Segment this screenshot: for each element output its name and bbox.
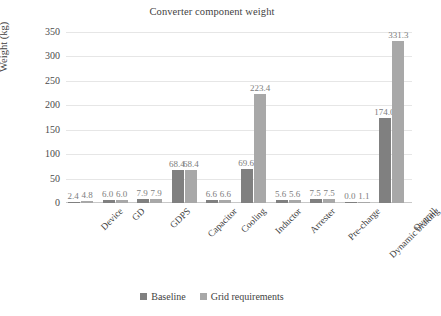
bar[interactable] <box>323 199 335 203</box>
bar[interactable] <box>68 202 80 204</box>
y-axis-tick-label: 200 <box>34 99 60 110</box>
y-axis-tick-label: 250 <box>34 75 60 86</box>
bar-group: 174.0331.3 <box>377 32 412 203</box>
bar[interactable] <box>289 200 301 203</box>
bar[interactable] <box>358 202 370 204</box>
bar-group: 69.6223.4 <box>239 32 274 203</box>
bar-value-label: 331.3 <box>383 30 413 40</box>
y-axis-tick-label: 300 <box>34 50 60 61</box>
chart-title: Converter component weight <box>0 6 424 17</box>
x-axis-tick-label: Device <box>99 206 125 232</box>
x-axis-tick-label: GD <box>130 206 147 223</box>
legend-item[interactable]: Grid requirements <box>200 291 284 302</box>
bar[interactable] <box>116 200 128 203</box>
x-axis-tick-label: Cooling <box>239 206 268 235</box>
bar-value-label: 7.9 <box>141 188 171 198</box>
bar-group: 5.65.6 <box>274 32 309 203</box>
y-axis-tick-label: 0 <box>34 197 60 208</box>
bar[interactable] <box>345 202 357 203</box>
bar-group: 6.66.6 <box>204 32 239 203</box>
bar-value-label: 6.6 <box>210 189 240 199</box>
bar[interactable] <box>219 200 231 203</box>
bar-group: 7.97.9 <box>135 32 170 203</box>
x-axis-tick-label: Pre-charge <box>345 206 381 242</box>
bar[interactable] <box>150 199 162 203</box>
bar[interactable] <box>81 201 93 203</box>
x-axis-tick-label: GDPS <box>168 206 192 230</box>
bar[interactable] <box>254 94 266 203</box>
bar[interactable] <box>137 199 149 203</box>
bar[interactable] <box>241 169 253 203</box>
bar[interactable] <box>276 200 288 203</box>
bar[interactable] <box>392 41 404 203</box>
legend-swatch-icon <box>200 293 207 300</box>
x-axis-tick-label: Arrester <box>308 206 337 235</box>
legend-label: Grid requirements <box>211 291 284 302</box>
bar-group: 2.44.8 <box>66 32 101 203</box>
x-axis-tick-label: Capacitor <box>206 206 239 239</box>
y-axis-title: Weight (kg) <box>0 22 9 72</box>
bar-group: 68.468.4 <box>170 32 205 203</box>
y-axis-tick-label: 350 <box>34 26 60 37</box>
bar-value-label: 223.4 <box>245 83 275 93</box>
bar[interactable] <box>185 170 197 203</box>
bar[interactable] <box>206 200 218 203</box>
bar-group: 6.06.0 <box>101 32 136 203</box>
y-axis-tick-label: 50 <box>34 173 60 184</box>
y-axis-tick-label: 100 <box>34 148 60 159</box>
bar[interactable] <box>172 170 184 203</box>
bar-value-label: 1.1 <box>349 191 379 201</box>
legend-label: Baseline <box>151 291 185 302</box>
x-axis-tick-label: Inductor <box>274 206 304 236</box>
bar[interactable] <box>103 200 115 203</box>
plot-area: 2.44.86.06.07.97.968.468.46.66.669.6223.… <box>66 32 412 203</box>
bar[interactable] <box>379 118 391 203</box>
legend-swatch-icon <box>140 293 147 300</box>
bar-group: 7.57.5 <box>308 32 343 203</box>
bar-value-label: 68.4 <box>176 159 206 169</box>
y-axis-tick-label: 150 <box>34 124 60 135</box>
bar-group: 0.01.1 <box>343 32 378 203</box>
bar[interactable] <box>310 199 322 203</box>
chart-legend: BaselineGrid requirements <box>0 291 424 302</box>
legend-item[interactable]: Baseline <box>140 291 185 302</box>
